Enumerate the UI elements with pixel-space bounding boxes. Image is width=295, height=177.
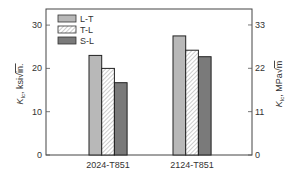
y-tick-label: 10 bbox=[32, 107, 42, 117]
right-y-axis: 0112233 bbox=[248, 20, 265, 160]
x-axis-labels: 2024-T8512124-T851 bbox=[86, 160, 214, 170]
left-y-axis: 0102030 bbox=[32, 20, 50, 160]
legend-label: L-T bbox=[80, 14, 94, 24]
bar-l-t-2024-t851 bbox=[89, 55, 102, 155]
category-label: 2124-T851 bbox=[170, 160, 214, 170]
plot-frame bbox=[46, 9, 252, 155]
left-axis-title: KIc, ksi√in. bbox=[15, 63, 26, 104]
y-tick-label: 20 bbox=[32, 63, 42, 73]
legend: L-TT-LS-L bbox=[58, 14, 94, 46]
bar-l-t-2124-t851 bbox=[173, 36, 186, 155]
bars bbox=[89, 36, 211, 155]
y-tick-label: 0 bbox=[37, 150, 42, 160]
y2-tick-label: 0 bbox=[255, 150, 260, 160]
y2-tick-label: 33 bbox=[255, 20, 265, 30]
y2-tick-label: 22 bbox=[255, 63, 265, 73]
y2-tick-label: 11 bbox=[255, 107, 264, 117]
bar-t-l-2124-t851 bbox=[186, 50, 199, 155]
bar-s-l-2024-t851 bbox=[114, 83, 127, 155]
legend-label: S-L bbox=[80, 36, 94, 46]
legend-swatch-t-l bbox=[58, 26, 76, 33]
legend-label: T-L bbox=[80, 25, 93, 35]
legend-swatch-s-l bbox=[58, 37, 76, 44]
bar-chart: 0102030 0112233 2024-T8512124-T851 L-TT-… bbox=[0, 0, 295, 177]
y-tick-label: 30 bbox=[32, 20, 42, 30]
bar-s-l-2124-t851 bbox=[198, 57, 211, 155]
category-label: 2024-T851 bbox=[86, 160, 130, 170]
bar-t-l-2024-t851 bbox=[102, 68, 115, 155]
right-axis-title: KIc, MPa√m bbox=[274, 61, 285, 108]
legend-swatch-l-t bbox=[58, 15, 76, 22]
